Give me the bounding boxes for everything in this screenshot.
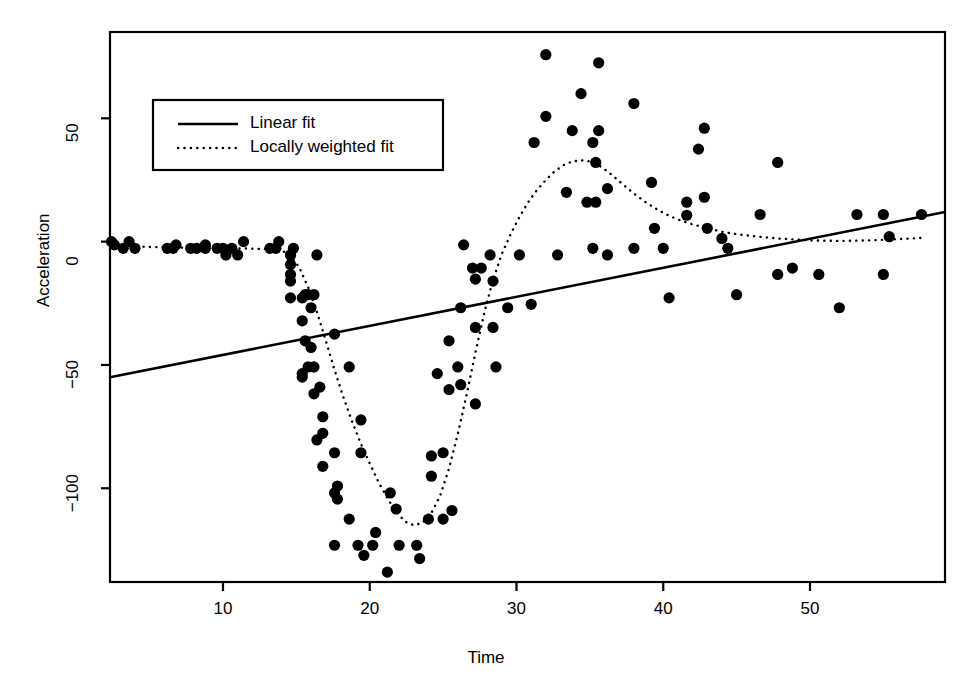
locally-weighted-fit-line [111,160,921,525]
legend-box [153,100,443,170]
x-tick-label: 20 [340,599,400,619]
y-tick-label: −100 [63,474,83,512]
legend-item-locally-weighted-fit[interactable]: Locally weighted fit [250,137,394,157]
x-tick-label: 30 [486,599,546,619]
chart-figure: Time Acceleration 1020304050 500−50−100 … [0,0,972,699]
x-axis-title: Time [0,648,972,668]
x-tick-label: 40 [633,599,693,619]
y-axis-title: Acceleration [34,213,54,307]
legend-item-linear-fit[interactable]: Linear fit [250,113,315,133]
axis-ticks [101,118,810,591]
x-tick-label: 10 [193,599,253,619]
y-tick-label: −50 [63,360,83,389]
y-tick-label: 0 [63,256,83,265]
y-tick-label: 50 [63,123,83,142]
plot-canvas [0,0,972,699]
x-tick-label: 50 [780,599,840,619]
linear-fit-line [110,212,945,377]
